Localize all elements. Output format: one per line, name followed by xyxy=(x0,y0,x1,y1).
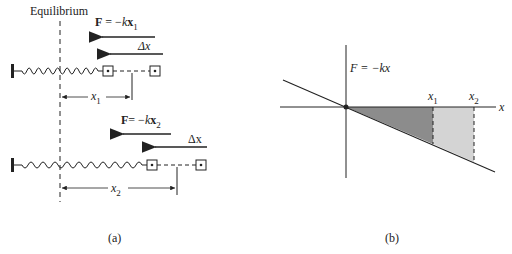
equilibrium-label: Equilibrium xyxy=(30,4,89,18)
panel-a: Equilibrium F = −kx1 Δx x1 F= −kx2 Δx xyxy=(11,4,207,245)
function-label: F = −kx xyxy=(349,61,391,75)
mass-1-initial-dot xyxy=(107,70,110,73)
force-label-1: F = −kx1 xyxy=(95,15,138,32)
delta-label-2: Δx xyxy=(188,132,202,146)
x1-axis-label: x1 xyxy=(427,89,438,106)
wall-1 xyxy=(11,64,14,78)
caption-a: (a) xyxy=(108,231,121,245)
mass-2-final-dot xyxy=(200,164,203,167)
x2-axis-label: x2 xyxy=(468,89,479,106)
origin-dot xyxy=(344,105,349,110)
caption-b: (b) xyxy=(385,231,399,245)
force-label-2: F= −kx2 xyxy=(121,113,161,130)
wall-2 xyxy=(11,158,14,172)
spring-1 xyxy=(14,68,103,74)
spring-2 xyxy=(14,162,147,168)
figure: Equilibrium F = −kx1 Δx x1 F= −kx2 Δx xyxy=(0,0,512,254)
mass-2-initial-dot xyxy=(151,164,154,167)
row-2: F= −kx2 Δx x2 xyxy=(11,113,207,198)
row-1: F = −kx1 Δx x1 xyxy=(11,15,163,106)
x-axis-label: x xyxy=(498,100,505,114)
mass-1-final-dot xyxy=(154,70,157,73)
panel-b: F = −kx x1 x2 x (b) xyxy=(280,45,505,245)
delta-label-1: Δx xyxy=(137,39,151,53)
